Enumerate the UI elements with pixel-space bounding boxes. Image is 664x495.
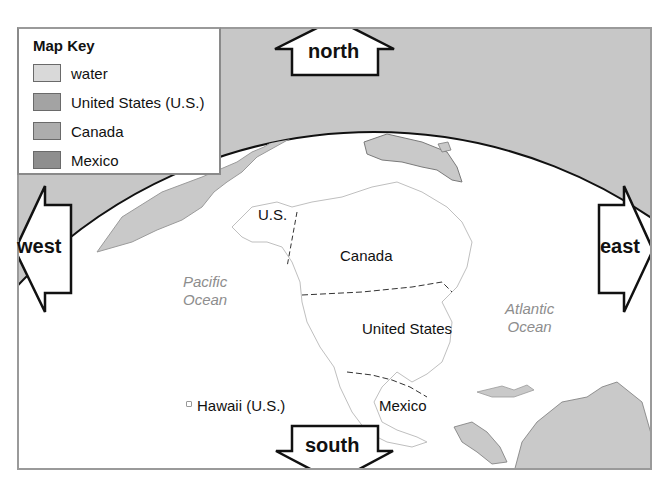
- north-label: north: [308, 40, 359, 63]
- map-key: Map Key water United States (U.S.) Canad…: [17, 27, 221, 175]
- south-label: south: [305, 434, 359, 457]
- legend-item-water: water: [33, 63, 108, 83]
- united-states-label: United States: [362, 320, 452, 337]
- mexico-label: Mexico: [379, 397, 427, 414]
- water-swatch: [33, 64, 61, 82]
- atlantic-ocean-label: Atlantic Ocean: [505, 300, 554, 336]
- legend-item-canada: Canada: [33, 121, 124, 141]
- legend-item-mexico: Mexico: [33, 150, 119, 170]
- east-label: east: [600, 235, 640, 258]
- alaska-label: U.S.: [258, 206, 287, 223]
- united-states-swatch: [33, 93, 61, 111]
- canada-label: Canada: [340, 247, 393, 264]
- hawaii-marker: [186, 401, 192, 407]
- legend-item-united-states: United States (U.S.): [33, 92, 204, 112]
- map-key-title: Map Key: [33, 37, 95, 54]
- canada-swatch: [33, 122, 61, 140]
- mexico-swatch: [33, 151, 61, 169]
- hawaii-label: Hawaii (U.S.): [197, 397, 285, 414]
- west-label: west: [17, 235, 61, 258]
- pacific-ocean-label: Pacific Ocean: [183, 273, 227, 309]
